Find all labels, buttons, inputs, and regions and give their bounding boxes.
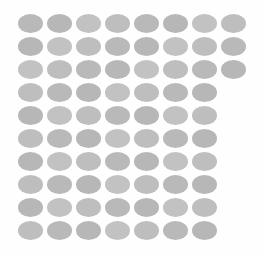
- ellipse-shape: [163, 175, 188, 194]
- ellipse-shape: [163, 106, 188, 125]
- ellipse-shape: [76, 60, 101, 79]
- ellipse-shape: [163, 60, 188, 79]
- ellipse-shape: [192, 129, 217, 148]
- ellipse-shape: [163, 37, 188, 56]
- ellipse-shape: [192, 83, 217, 102]
- ellipse-shape: [76, 37, 101, 56]
- ellipse-shape: [18, 106, 43, 125]
- ellipse-shape: [134, 152, 159, 171]
- ellipse-shape: [163, 83, 188, 102]
- ellipse-shape: [192, 60, 217, 79]
- ellipse-row: [0, 14, 266, 37]
- ellipse-shape: [18, 152, 43, 171]
- ellipse-shape: [163, 129, 188, 148]
- ellipse-shape: [134, 175, 159, 194]
- ellipse-shape: [47, 198, 72, 217]
- ellipse-shape: [18, 198, 43, 217]
- ellipse-shape: [192, 106, 217, 125]
- ellipse-shape: [47, 175, 72, 194]
- ellipse-shape: [105, 60, 130, 79]
- ellipse-shape: [134, 37, 159, 56]
- ellipse-shape: [47, 221, 72, 240]
- ellipse-shape: [18, 175, 43, 194]
- ellipse-row: [0, 221, 266, 244]
- ellipse-shape: [47, 14, 72, 33]
- ellipse-shape: [105, 14, 130, 33]
- ellipse-shape: [105, 152, 130, 171]
- ellipse-row: [0, 152, 266, 175]
- ellipse-shape: [105, 221, 130, 240]
- ellipse-grid: [0, 0, 266, 256]
- ellipse-shape: [134, 106, 159, 125]
- ellipse-shape: [47, 60, 72, 79]
- ellipse-shape: [76, 106, 101, 125]
- ellipse-row: [0, 106, 266, 129]
- ellipse-shape: [105, 106, 130, 125]
- ellipse-shape: [221, 37, 246, 56]
- ellipse-shape: [192, 152, 217, 171]
- ellipse-shape: [134, 14, 159, 33]
- ellipse-shape: [76, 14, 101, 33]
- ellipse-row: [0, 60, 266, 83]
- ellipse-shape: [192, 14, 217, 33]
- ellipse-row: [0, 175, 266, 198]
- ellipse-shape: [163, 198, 188, 217]
- ellipse-shape: [18, 14, 43, 33]
- ellipse-row: [0, 37, 266, 60]
- ellipse-shape: [192, 37, 217, 56]
- ellipse-shape: [105, 198, 130, 217]
- ellipse-shape: [221, 60, 246, 79]
- ellipse-shape: [76, 129, 101, 148]
- ellipse-shape: [192, 221, 217, 240]
- ellipse-shape: [221, 14, 246, 33]
- ellipse-shape: [18, 60, 43, 79]
- ellipse-shape: [76, 175, 101, 194]
- ellipse-shape: [163, 14, 188, 33]
- ellipse-shape: [134, 129, 159, 148]
- ellipse-shape: [134, 221, 159, 240]
- ellipse-shape: [105, 175, 130, 194]
- ellipse-shape: [47, 37, 72, 56]
- ellipse-shape: [163, 221, 188, 240]
- ellipse-shape: [18, 37, 43, 56]
- ellipse-shape: [105, 129, 130, 148]
- ellipse-shape: [76, 83, 101, 102]
- ellipse-shape: [192, 175, 217, 194]
- ellipse-shape: [134, 83, 159, 102]
- ellipse-shape: [134, 60, 159, 79]
- ellipse-shape: [76, 198, 101, 217]
- ellipse-shape: [47, 106, 72, 125]
- ellipse-shape: [47, 152, 72, 171]
- ellipse-shape: [18, 221, 43, 240]
- ellipse-shape: [18, 129, 43, 148]
- ellipse-shape: [134, 198, 159, 217]
- ellipse-row: [0, 83, 266, 106]
- ellipse-shape: [76, 152, 101, 171]
- ellipse-shape: [47, 83, 72, 102]
- ellipse-shape: [105, 83, 130, 102]
- ellipse-row: [0, 198, 266, 221]
- ellipse-shape: [47, 129, 72, 148]
- ellipse-shape: [76, 221, 101, 240]
- ellipse-row: [0, 129, 266, 152]
- ellipse-shape: [18, 83, 43, 102]
- ellipse-shape: [105, 37, 130, 56]
- ellipse-shape: [192, 198, 217, 217]
- ellipse-shape: [163, 152, 188, 171]
